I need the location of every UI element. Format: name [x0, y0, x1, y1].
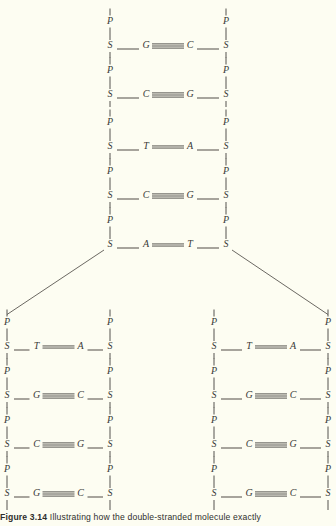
sugar-left-0: S: [108, 39, 113, 50]
phosphate-left-1: P: [210, 365, 217, 376]
base-left-3: G: [33, 487, 40, 498]
phosphate-right-1: P: [324, 365, 331, 376]
phosphate-left-0: P: [210, 316, 217, 327]
phosphate-right-2: P: [222, 116, 229, 127]
base-left-1: C: [143, 88, 150, 99]
phosphate-left-0: P: [3, 316, 10, 327]
sugar-right-3: S: [108, 487, 113, 498]
base-left-0: G: [142, 39, 149, 50]
figure-caption-text: Illustrating how the double-stranded mol…: [50, 512, 261, 522]
phosphate-right-3: P: [106, 463, 113, 474]
phosphate-right-0: P: [324, 316, 331, 327]
sugar-left-1: S: [108, 88, 113, 99]
sugar-left-3: S: [108, 189, 113, 200]
sugar-right-1: S: [108, 389, 113, 400]
phosphate-right-2: P: [324, 414, 331, 425]
base-left-0: T: [34, 340, 41, 351]
base-right-3: C: [290, 487, 297, 498]
phosphate-right-0: P: [106, 316, 113, 327]
base-left-2: T: [143, 140, 150, 151]
parent-strand-group: PSPSPSPSPSPSPSPSPSPSGCCGTACGAT: [106, 9, 229, 250]
base-left-1: G: [33, 389, 40, 400]
sugar-left-1: S: [5, 389, 10, 400]
phosphate-right-2: P: [106, 414, 113, 425]
sugar-left-0: S: [212, 340, 217, 351]
figure-label: Figure 3.14: [0, 512, 47, 522]
phosphate-left-0: P: [106, 15, 113, 26]
sugar-left-2: S: [212, 438, 217, 449]
base-right-3: C: [77, 487, 84, 498]
base-right-0: A: [289, 340, 297, 351]
phosphate-left-3: P: [106, 165, 113, 176]
sugar-left-4: S: [108, 238, 113, 249]
fork-branch-left: [7, 250, 104, 315]
base-right-1: C: [77, 389, 84, 400]
phosphate-right-1: P: [106, 365, 113, 376]
phosphate-right-0: P: [222, 15, 229, 26]
phosphate-left-1: P: [106, 64, 113, 75]
base-right-4: T: [187, 238, 194, 249]
phosphate-right-4: P: [222, 214, 229, 225]
sugar-right-4: S: [224, 238, 229, 249]
base-right-3: G: [186, 189, 193, 200]
base-right-2: G: [289, 438, 296, 449]
sugar-left-3: S: [212, 487, 217, 498]
base-right-2: A: [186, 140, 194, 151]
base-right-0: C: [187, 39, 194, 50]
daughter-left-group: PSPSPSPSPSPSPSPSTAGCCGGC: [3, 310, 113, 511]
base-right-1: G: [186, 88, 193, 99]
base-left-2: C: [246, 438, 253, 449]
base-right-1: C: [290, 389, 297, 400]
fork-branch-right: [232, 250, 328, 315]
base-left-1: G: [245, 389, 252, 400]
sugar-left-2: S: [5, 438, 10, 449]
sugar-left-0: S: [5, 340, 10, 351]
sugar-right-0: S: [224, 39, 229, 50]
sugar-right-0: S: [108, 340, 113, 351]
phosphate-left-3: P: [3, 463, 10, 474]
sugar-right-2: S: [326, 438, 331, 449]
phosphate-right-1: P: [222, 64, 229, 75]
sugar-right-2: S: [224, 140, 229, 151]
figure-canvas: PSPSPSPSPSPSPSPSPSPSGCCGTACGAT PSPSPSPSP…: [0, 0, 336, 526]
sugar-left-1: S: [212, 389, 217, 400]
sugar-right-1: S: [326, 389, 331, 400]
sugar-right-0: S: [326, 340, 331, 351]
replication-fork-group: [7, 250, 328, 315]
phosphate-left-2: P: [3, 414, 10, 425]
phosphate-right-3: P: [222, 165, 229, 176]
phosphate-left-2: P: [210, 414, 217, 425]
base-right-2: G: [77, 438, 84, 449]
base-left-4: A: [142, 238, 150, 249]
daughter-right-group: PSPSPSPSPSPSPSPSTAGCCGGC: [210, 310, 331, 511]
sugar-left-2: S: [108, 140, 113, 151]
figure-caption: Figure 3.14 Illustrating how the double-…: [0, 512, 336, 523]
phosphate-left-4: P: [106, 214, 113, 225]
phosphate-left-2: P: [106, 116, 113, 127]
base-right-0: A: [76, 340, 84, 351]
phosphate-left-3: P: [210, 463, 217, 474]
base-left-2: C: [33, 438, 40, 449]
phosphate-left-1: P: [3, 365, 10, 376]
base-left-3: C: [143, 189, 150, 200]
sugar-right-1: S: [224, 88, 229, 99]
base-left-0: T: [246, 340, 253, 351]
sugar-right-3: S: [224, 189, 229, 200]
sugar-left-3: S: [5, 487, 10, 498]
base-left-3: G: [245, 487, 252, 498]
sugar-right-2: S: [108, 438, 113, 449]
sugar-right-3: S: [326, 487, 331, 498]
phosphate-right-3: P: [324, 463, 331, 474]
dna-replication-diagram: PSPSPSPSPSPSPSPSPSPSGCCGTACGAT PSPSPSPSP…: [0, 0, 336, 526]
